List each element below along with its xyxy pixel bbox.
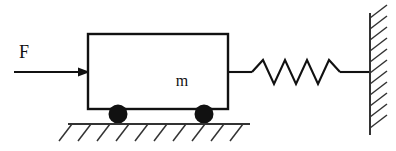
wall-hatch-mark	[370, 16, 387, 29]
wall-hatch-mark	[370, 93, 387, 106]
physics-diagram-root: F m	[0, 0, 396, 151]
ground-group	[59, 124, 250, 141]
ground-hatch-mark	[116, 124, 129, 141]
ground-hatch-mark	[97, 124, 110, 141]
ground-hatch-mark	[59, 124, 72, 141]
spring-coil-icon	[252, 60, 340, 84]
force-arrow-group: F	[14, 42, 90, 77]
wall-hatch-mark	[370, 60, 387, 73]
wall-group	[370, 5, 387, 135]
wall-hatch-mark	[370, 104, 387, 117]
diagram-canvas: F m	[0, 0, 396, 151]
ground-hatch-mark	[211, 124, 224, 141]
ground-hatch-mark	[154, 124, 167, 141]
mass-block-rect	[88, 34, 228, 109]
wall-hatch-mark	[370, 115, 387, 128]
ground-hatch-mark	[78, 124, 91, 141]
wall-hatching	[370, 5, 387, 128]
ground-hatching	[59, 124, 243, 141]
ground-hatch-mark	[173, 124, 186, 141]
mass-block-group: m	[88, 34, 228, 109]
wall-hatch-mark	[370, 5, 387, 18]
wheel-right	[195, 105, 214, 124]
ground-hatch-mark	[135, 124, 148, 141]
force-label: F	[19, 42, 29, 62]
wall-hatch-mark	[370, 38, 387, 51]
ground-hatch-mark	[230, 124, 243, 141]
ground-hatch-mark	[192, 124, 205, 141]
wall-hatch-mark	[370, 71, 387, 84]
wall-hatch-mark	[370, 49, 387, 62]
wall-hatch-mark	[370, 82, 387, 95]
wheel-left	[109, 105, 128, 124]
spring-group	[228, 60, 370, 84]
mass-label: m	[176, 72, 189, 89]
wall-hatch-mark	[370, 27, 387, 40]
